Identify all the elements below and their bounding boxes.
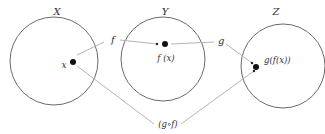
set-X-label: X <box>52 6 61 17</box>
arrow-f-label: f <box>110 34 117 45</box>
set-Y-label: Y <box>162 6 170 17</box>
arrow-gof-label: (g∘f) <box>158 119 177 129</box>
diagram-canvas: X Y Z f g (g∘f) x f (x) g(f(x)) <box>0 0 325 134</box>
point-gfx-dot <box>253 64 259 70</box>
set-Z-label: Z <box>272 6 281 17</box>
point-x-dot <box>70 59 76 65</box>
composition-diagram: X Y Z f g (g∘f) x f (x) g(f(x)) <box>0 0 325 134</box>
arrow-gof <box>77 66 255 124</box>
point-fx-dot <box>162 41 168 47</box>
arrow-g-label: g <box>218 35 224 46</box>
point-fx-label: f (x) <box>156 53 174 63</box>
point-x-label: x <box>61 60 66 70</box>
point-gfx-label: g(f(x)) <box>264 55 291 65</box>
arrow-f <box>77 40 158 55</box>
set-X-circle <box>10 17 98 105</box>
